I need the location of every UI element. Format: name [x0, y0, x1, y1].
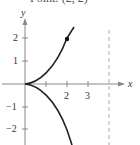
x-axis-arrow-icon	[118, 82, 125, 87]
y-tick-label-2: 2	[13, 32, 18, 43]
y-axis-arrow-icon	[23, 18, 28, 25]
x-tick-label-2: 2	[64, 90, 69, 101]
x-tick-label-3: 3	[85, 90, 90, 101]
y-tick-label-m2: −2	[6, 123, 17, 134]
chart-plot: 2 3 2 1 −1 −2 x y	[0, 0, 140, 145]
marked-point	[65, 37, 69, 41]
y-tick-label-1: 1	[13, 55, 18, 66]
curve-upper-branch	[25, 27, 74, 84]
y-tick-label-m1: −1	[6, 101, 17, 112]
y-axis-label: y	[20, 7, 26, 18]
x-axis-label: x	[127, 78, 133, 89]
